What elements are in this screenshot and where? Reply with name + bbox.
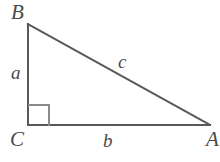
- vertex-label-b: B: [11, 2, 24, 23]
- geometry-figure: B C A a b c: [0, 0, 220, 162]
- vertex-label-a: A: [206, 129, 219, 150]
- side-label-c: c: [118, 52, 126, 71]
- vertex-label-c: C: [10, 129, 24, 150]
- right-angle-marker-icon: [29, 105, 49, 125]
- side-label-b: b: [103, 131, 113, 150]
- segment-c-hypotenuse: [28, 24, 210, 125]
- side-label-a: a: [11, 63, 21, 82]
